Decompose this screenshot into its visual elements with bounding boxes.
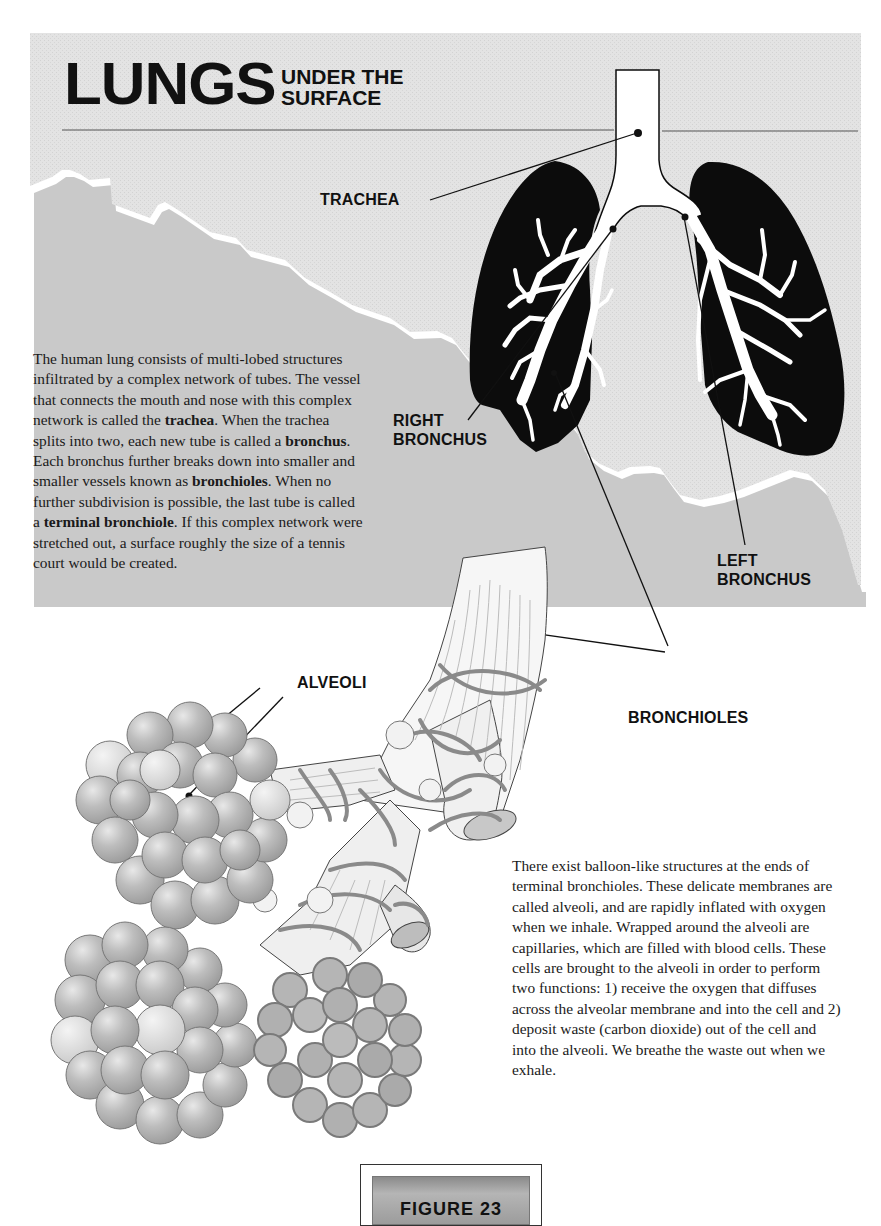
- subtitle-line-1: UNDER THE: [281, 66, 404, 87]
- subtitle-line-2: SURFACE: [281, 87, 404, 108]
- term-bronchus: bronchus: [285, 432, 346, 449]
- page-title: LUNGS: [64, 55, 276, 114]
- label-left-bronchus: LEFT BRONCHUS: [717, 551, 811, 589]
- label-right-bronchus: RIGHT BRONCHUS: [393, 411, 487, 449]
- term-terminal-bronchiole: terminal bronchiole: [44, 513, 174, 530]
- label-right-bronchus-line2: BRONCHUS: [393, 430, 487, 449]
- alveoli-cluster-upper: [76, 702, 290, 929]
- alveoli-cluster-capillary: [254, 958, 421, 1137]
- label-bronchioles: BRONCHIOLES: [628, 708, 748, 727]
- page-subtitle: UNDER THE SURFACE: [281, 66, 404, 108]
- figure-label-plate: FIGURE 23: [372, 1176, 530, 1225]
- label-alveoli: ALVEOLI: [297, 673, 367, 692]
- alveoli-cluster-lower-left: [51, 922, 257, 1144]
- label-left-bronchus-line2: BRONCHUS: [717, 570, 811, 589]
- label-trachea: TRACHEA: [320, 190, 400, 209]
- figure-label-box: FIGURE 23: [360, 1164, 542, 1226]
- term-bronchioles: bronchioles: [192, 472, 268, 489]
- label-left-bronchus-line1: LEFT: [717, 551, 811, 570]
- term-trachea: trachea: [165, 411, 215, 428]
- figure-label: FIGURE 23: [373, 1199, 529, 1220]
- alveoli-paragraph: There exist balloon-like structures at t…: [512, 856, 842, 1080]
- intro-paragraph: The human lung consists of multi-lobed s…: [33, 349, 363, 573]
- label-right-bronchus-line1: RIGHT: [393, 411, 487, 430]
